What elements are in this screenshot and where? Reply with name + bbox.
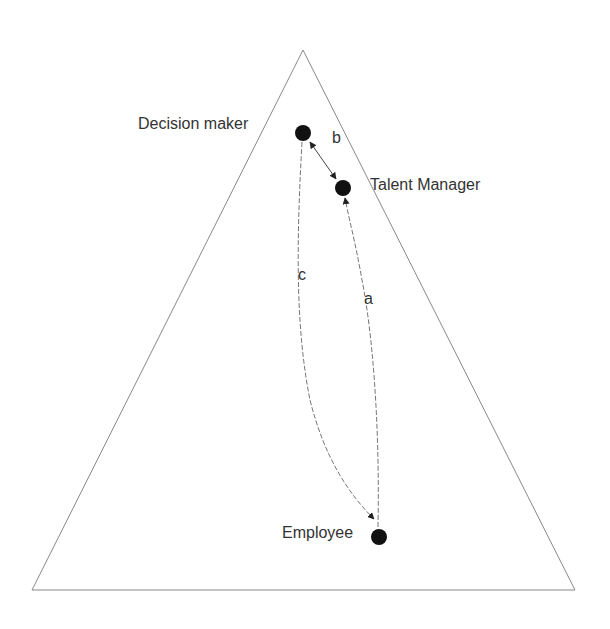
node-talent-manager bbox=[335, 180, 351, 196]
edge-c bbox=[298, 142, 374, 519]
node-decision-maker bbox=[295, 125, 311, 141]
edge-b bbox=[310, 142, 336, 179]
edge-label-b: b bbox=[332, 129, 341, 147]
label-talent-manager: Talent Manager bbox=[370, 176, 480, 194]
edge-a bbox=[345, 198, 378, 527]
edge-label-c: c bbox=[298, 266, 306, 284]
edge-label-a: a bbox=[364, 290, 373, 308]
label-employee: Employee bbox=[282, 524, 353, 542]
label-decision-maker: Decision maker bbox=[138, 115, 248, 133]
node-employee bbox=[371, 529, 387, 545]
